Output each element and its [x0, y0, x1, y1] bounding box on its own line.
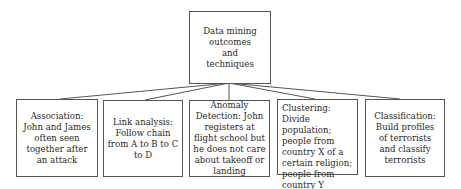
clustering-label: Clustering: Divide population; people fr… [282, 103, 353, 189]
connector-association [60, 83, 229, 99]
root-node: Data mining outcomes and techniques [189, 11, 271, 84]
anomaly-detection-label: Anomaly Detection: John registers at fli… [193, 100, 266, 177]
root-label: Data mining outcomes and techniques [200, 26, 260, 70]
connector-clustering [229, 83, 315, 99]
node-anomaly-detection: Anomaly Detection: John registers at fli… [189, 100, 270, 177]
node-clustering: Clustering: Divide population; people fr… [277, 99, 358, 175]
node-link-analysis: Link analysis: Follow chain from A to B … [103, 100, 183, 177]
link-analysis-label: Link analysis: Follow chain from A to B … [107, 117, 179, 161]
association-label: Association: John and James often seen t… [22, 111, 92, 166]
connector-link-analysis [145, 83, 229, 100]
classification-label: Classification: Build profiles of terror… [372, 111, 438, 166]
node-classification: Classification: Build profiles of terror… [365, 99, 445, 177]
connector-classification [229, 83, 400, 99]
node-association: Association: John and James often seen t… [16, 99, 98, 177]
